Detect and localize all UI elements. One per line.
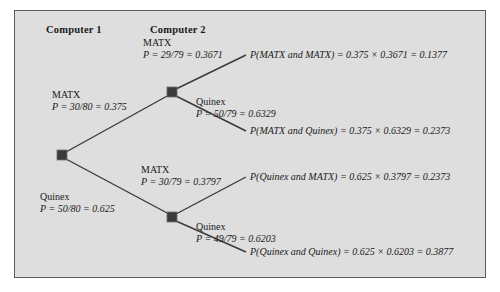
outcome-quinex-quinex: P(Quinex and Quinex) = 0.625 × 0.6203 = …	[250, 246, 453, 258]
outcome-text: P(MATX and Quinex) = 0.375 × 0.6329 = 0.…	[250, 125, 450, 136]
branch-label-level1-matx: MATX P = 30/80 = 0.375	[52, 89, 127, 113]
branch-probability: P = 30/80 = 0.375	[52, 101, 127, 112]
outcome-quinex-matx: P(Quinex and MATX) = 0.625 × 0.3797 = 0.…	[250, 171, 450, 183]
branch-name: MATX	[52, 89, 127, 101]
column-header-computer-2: Computer 2	[150, 24, 206, 37]
outcome-text: P(Quinex and Quinex) = 0.625 × 0.6203 = …	[250, 246, 453, 257]
outcome-matx-matx: P(MATX and MATX) = 0.375 × 0.3671 = 0.13…	[250, 49, 447, 61]
outcome-text: P(Quinex and MATX) = 0.625 × 0.3797 = 0.…	[250, 171, 450, 182]
node-quinex-level1	[167, 212, 177, 222]
diagram-canvas: Computer 1 Computer 2 MATX P = 29/79 = 0…	[0, 0, 500, 292]
column-header-computer-1: Computer 1	[46, 24, 102, 37]
branch-probability: P = 50/80 = 0.625	[40, 203, 115, 214]
outcome-text: P(MATX and MATX) = 0.375 × 0.3671 = 0.13…	[250, 49, 447, 60]
node-matx-level1	[167, 87, 177, 97]
branch-label-level2-bottom-quinex: Quinex P = 49/79 = 0.6203	[196, 221, 276, 245]
branch-probability: P = 50/79 = 0.6329	[196, 108, 276, 119]
branch-name: Quinex	[196, 221, 276, 233]
branch-name: Quinex	[196, 96, 276, 108]
branch-label-level2-bottom-matx: MATX P = 30/79 = 0.3797	[141, 164, 221, 188]
node-root	[57, 150, 67, 160]
outcome-matx-quinex: P(MATX and Quinex) = 0.375 × 0.6329 = 0.…	[250, 125, 450, 137]
branch-label-level2-top-quinex: Quinex P = 50/79 = 0.6329	[196, 96, 276, 120]
branch-name: MATX	[141, 164, 221, 176]
branch-name: MATX	[143, 37, 223, 49]
branch-probability: P = 29/79 = 0.3671	[143, 49, 223, 60]
branch-name: Quinex	[40, 191, 115, 203]
branch-label-level1-quinex: Quinex P = 50/80 = 0.625	[40, 191, 115, 215]
branch-probability: P = 49/79 = 0.6203	[196, 233, 276, 244]
branch-label-level2-top-matx: MATX P = 29/79 = 0.3671	[143, 37, 223, 61]
branch-probability: P = 30/79 = 0.3797	[141, 176, 221, 187]
